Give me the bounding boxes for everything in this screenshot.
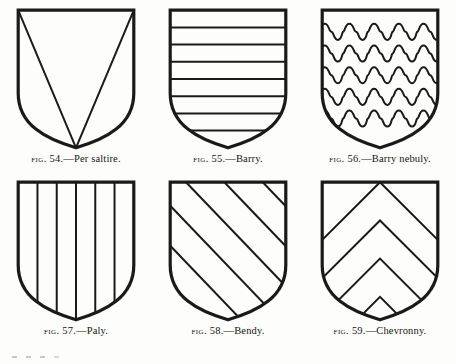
caption-dash: — [63, 153, 74, 164]
figure-cell-55: Fig. 55.—Barry. [152, 0, 304, 172]
saltire-line-sinister [76, 10, 134, 148]
shield-field-charges [320, 24, 440, 127]
chevron-line [320, 182, 440, 298]
chevron-line [320, 220, 440, 322]
caption-dash: — [225, 153, 236, 164]
figure-number: 57. [62, 325, 76, 336]
figure-number: 58. [210, 325, 224, 336]
figure-term: Chevronny. [376, 325, 426, 336]
figure-caption: Fig. 56.—Barry nebuly. [329, 153, 431, 164]
shield-outline [322, 182, 438, 320]
chevron-line [320, 259, 440, 322]
caption-dash: — [76, 325, 87, 336]
figure-term: Bendy. [234, 325, 264, 336]
figure-label: Fig. [44, 325, 60, 336]
figure-cell-59: Fig. 59.—Chevronny. [304, 172, 456, 344]
shield-illustration-paly [16, 180, 136, 322]
nebuly-line [320, 24, 440, 40]
nebuly-line [320, 89, 440, 105]
figure-caption: Fig. 58.—Bendy. [192, 325, 265, 336]
figure-cell-54: Fig. 54.—Per saltire. [0, 0, 152, 172]
caption-dash: — [366, 325, 377, 336]
shield-field-charges [37, 180, 114, 322]
figure-cell-57: Fig. 57.—Paly. [0, 172, 152, 344]
shield-chevronny [320, 180, 440, 322]
caption-dash: — [224, 325, 235, 336]
shield-per-saltire [16, 8, 136, 150]
shield-barry [168, 8, 288, 150]
figure-label: Fig. [329, 153, 345, 164]
figure-number: 55. [212, 153, 226, 164]
bendy-line [224, 182, 288, 322]
figure-cell-56: Fig. 56.—Barry nebuly. [304, 0, 456, 172]
shield-bendy [168, 180, 288, 322]
figure-number: 59. [352, 325, 366, 336]
figure-number: 54. [50, 153, 64, 164]
saltire-line-dexter [18, 10, 76, 148]
shield-paly [16, 180, 136, 322]
shield-outline [170, 182, 286, 320]
figure-term: Per saltire. [74, 153, 121, 164]
shield-barry-nebuly [320, 8, 440, 150]
figure-label: Fig. [334, 325, 350, 336]
bendy-line [186, 182, 288, 322]
shield-outline [18, 10, 134, 148]
shield-illustration-chevronny [320, 180, 440, 322]
nebuly-line [320, 111, 440, 127]
figure-term: Barry. [236, 153, 263, 164]
shield-illustration-per-saltire [16, 8, 136, 150]
figure-term: Paly. [87, 325, 108, 336]
shield-field-charges [168, 27, 288, 130]
figure-caption: Fig. 55.—Barry. [193, 153, 262, 164]
shield-illustration-barry-nebuly [320, 8, 440, 150]
nebuly-line [320, 46, 440, 62]
figure-cell-58: Fig. 58.—Bendy. [152, 172, 304, 344]
figure-caption: Fig. 59.—Chevronny. [334, 325, 427, 336]
shield-illustration-barry [168, 8, 288, 150]
scan-artifact-marks [8, 352, 88, 360]
nebuly-line [320, 67, 440, 83]
shield-illustration-bendy [168, 180, 288, 322]
figure-number: 56. [347, 153, 361, 164]
figure-caption: Fig. 57.—Paly. [44, 325, 108, 336]
figure-label: Fig. [31, 153, 47, 164]
caption-dash: — [361, 153, 372, 164]
figure-term: Barry nebuly. [372, 153, 431, 164]
figure-label: Fig. [193, 153, 209, 164]
figure-grid: Fig. 54.—Per saltire.Fig. 55.—Barry.Fig.… [0, 0, 456, 344]
figure-plate: Fig. 54.—Per saltire.Fig. 55.—Barry.Fig.… [0, 0, 456, 364]
figure-label: Fig. [192, 325, 208, 336]
figure-caption: Fig. 54.—Per saltire. [31, 153, 120, 164]
